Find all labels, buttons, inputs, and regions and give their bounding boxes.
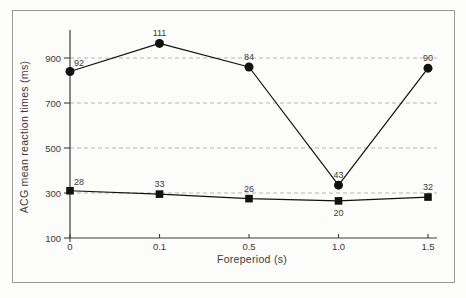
y-axis-title: ACG mean reaction times (ms): [18, 61, 30, 214]
x-axis-title: Foreperiod (s): [217, 253, 287, 265]
point-label: 43: [333, 170, 343, 180]
point-label: 26: [244, 184, 254, 194]
filled-circle-series-marker: [334, 181, 343, 190]
y-tick-label: 900: [45, 53, 61, 64]
point-label: 90: [423, 53, 433, 63]
point-label: 28: [74, 177, 84, 187]
y-tick-label: 300: [45, 188, 61, 199]
point-label: 33: [154, 179, 164, 189]
filled-square-series-marker: [156, 190, 164, 198]
filled-square-series-marker: [66, 187, 74, 195]
filled-square-series-marker: [335, 197, 343, 205]
y-tick-label: 700: [45, 98, 61, 109]
point-label: 32: [423, 182, 433, 192]
filled-square-series-marker: [245, 195, 253, 203]
filled-circle-series-marker: [245, 63, 254, 72]
point-label: 84: [244, 52, 254, 62]
filled-circle-series-marker: [155, 39, 164, 48]
filled-circle-series-marker: [424, 64, 433, 73]
x-tick-label: 1.5: [421, 241, 434, 252]
y-tick-label: 500: [45, 143, 61, 154]
x-tick-label: 0: [67, 241, 72, 252]
filled-square-series-marker: [424, 193, 432, 201]
x-tick-label: 1.0: [332, 241, 345, 252]
point-label: 20: [333, 208, 343, 218]
x-tick-label: 0.1: [153, 241, 166, 252]
figure: 10030050070090000.10.51.01.5921118443902…: [0, 0, 466, 298]
point-label: 92: [74, 58, 84, 68]
y-tick-label: 100: [45, 233, 61, 244]
point-label: 111: [153, 28, 167, 38]
x-tick-label: 0.5: [242, 241, 255, 252]
filled-circle-series-marker: [66, 67, 75, 76]
